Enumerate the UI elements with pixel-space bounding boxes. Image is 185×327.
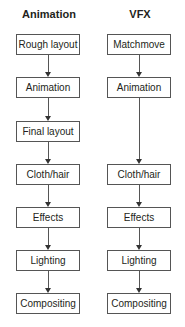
connector-line xyxy=(139,228,140,245)
arrow-down-icon xyxy=(136,245,142,250)
animation-column-title: Animation xyxy=(9,8,89,20)
connector-line xyxy=(48,98,49,116)
connector-line xyxy=(139,98,140,159)
animation-step-animation: Animation xyxy=(16,77,80,98)
connector-line xyxy=(48,142,49,159)
arrow-down-icon xyxy=(45,72,51,77)
animation-step-compositing: Compositing xyxy=(16,293,80,314)
animation-step-lighting: Lighting xyxy=(16,250,80,271)
arrow-down-icon xyxy=(45,245,51,250)
arrow-down-icon xyxy=(45,288,51,293)
arrow-down-icon xyxy=(136,288,142,293)
connector-line xyxy=(139,55,140,72)
arrow-down-icon xyxy=(136,159,142,164)
arrow-down-icon xyxy=(45,202,51,207)
connector-line xyxy=(139,271,140,288)
vfx-step-effects: Effects xyxy=(107,207,171,228)
animation-step-final-layout: Final layout xyxy=(16,121,80,142)
arrow-down-icon xyxy=(136,72,142,77)
vfx-step-lighting: Lighting xyxy=(107,250,171,271)
arrow-down-icon xyxy=(45,159,51,164)
arrow-down-icon xyxy=(136,202,142,207)
vfx-step-compositing: Compositing xyxy=(107,293,171,314)
vfx-step-cloth-hair: Cloth/hair xyxy=(107,164,171,185)
arrow-down-icon xyxy=(45,116,51,121)
vfx-column-title: VFX xyxy=(100,8,180,20)
connector-line xyxy=(48,228,49,245)
connector-line xyxy=(48,271,49,288)
vfx-step-matchmove: Matchmove xyxy=(107,34,171,55)
vfx-step-animation: Animation xyxy=(107,77,171,98)
animation-step-effects: Effects xyxy=(16,207,80,228)
connector-line xyxy=(48,55,49,72)
animation-step-cloth-hair: Cloth/hair xyxy=(16,164,80,185)
animation-step-rough-layout: Rough layout xyxy=(16,34,80,55)
connector-line xyxy=(139,185,140,202)
connector-line xyxy=(48,185,49,202)
